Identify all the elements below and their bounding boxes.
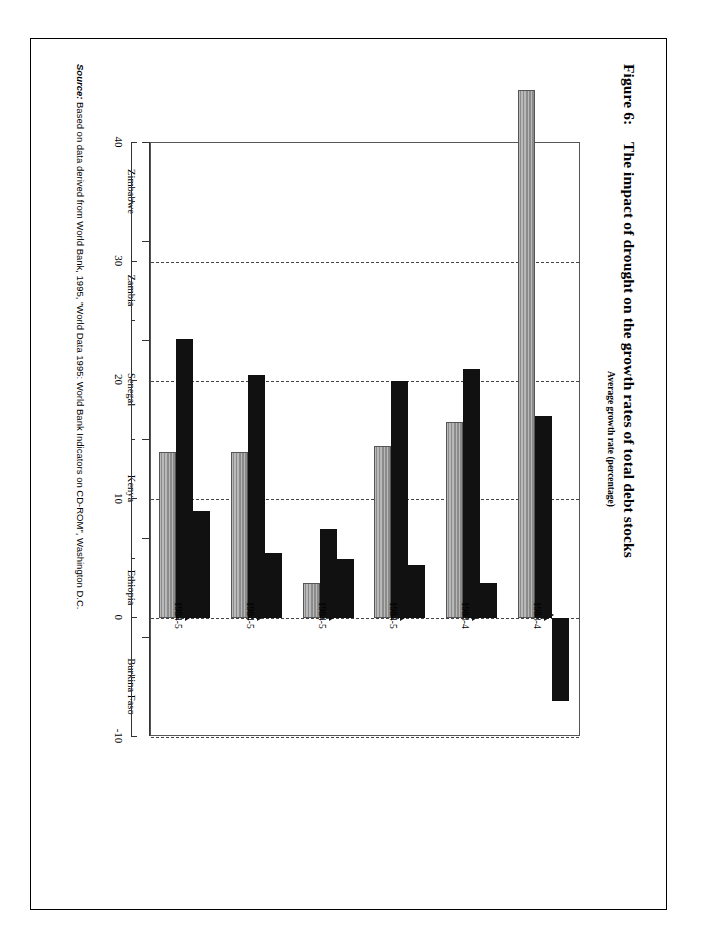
arrow-icon xyxy=(543,609,553,621)
plot-area: 1984-51984-51984-51984-51983-41983-4 xyxy=(150,142,580,736)
bar-kenya-s2 xyxy=(336,558,353,617)
gridline xyxy=(151,499,579,500)
annotation-year: 1984-5 xyxy=(245,601,255,628)
value-tick-minor xyxy=(131,676,135,677)
value-tick-minor xyxy=(131,557,135,558)
category-tick xyxy=(142,439,149,440)
legend: 2 pre-drought yearsDrought and post-drou… xyxy=(652,142,653,736)
value-tick xyxy=(131,260,137,261)
arrow-icon xyxy=(472,609,482,621)
bar-ethiopia-s0 xyxy=(231,451,248,617)
bar-senegal-s0 xyxy=(374,445,391,617)
source-note: Source: Based on data derived from World… xyxy=(75,64,86,610)
annotation-year: 1983-4 xyxy=(531,601,541,628)
arrow-icon xyxy=(185,609,195,621)
gridline xyxy=(151,261,579,262)
value-tick xyxy=(131,617,137,618)
bar-ethiopia-s1 xyxy=(248,374,265,618)
value-axis: 403020100-10 xyxy=(131,142,132,736)
value-tick-minor xyxy=(131,320,135,321)
bar-burkina-faso-s2 xyxy=(193,511,210,618)
value-axis-title: Average growth rate (percentage) xyxy=(606,142,616,736)
source-text: Based on data derived from World Bank, 1… xyxy=(75,102,86,610)
bar-zimbabwe-s2 xyxy=(551,618,568,701)
value-tick-label: 20 xyxy=(113,374,125,385)
category-tick xyxy=(142,538,149,539)
bar-zimbabwe-s0 xyxy=(517,89,534,618)
bar-zambia-s0 xyxy=(446,422,463,618)
annotation-year: 1984-5 xyxy=(388,601,398,628)
arrow-icon xyxy=(400,609,410,621)
annotation-year: 1984-5 xyxy=(173,601,183,628)
category-tick xyxy=(142,637,149,638)
figure-title: Figure 6:The impact of drought on the gr… xyxy=(620,64,638,558)
category-tick xyxy=(142,142,149,143)
figure-number: Figure 6: xyxy=(620,64,638,142)
bar-zimbabwe-s1 xyxy=(534,416,551,618)
gridline xyxy=(151,380,579,381)
bar-zambia-s1 xyxy=(463,368,480,617)
value-tick-label: 10 xyxy=(113,492,125,503)
bar-burkina-faso-s0 xyxy=(159,451,176,617)
figure-rotation-wrapper: Figure 6:The impact of drought on the gr… xyxy=(0,0,703,951)
arrow-icon xyxy=(328,609,338,621)
bar-burkina-faso-s1 xyxy=(176,339,193,618)
value-tick xyxy=(131,498,137,499)
category-tick xyxy=(142,340,149,341)
annotation-year: 1984-5 xyxy=(316,601,326,628)
gridline xyxy=(151,618,579,619)
gridline xyxy=(151,737,579,738)
value-tick-minor xyxy=(131,439,135,440)
figure: Figure 6:The impact of drought on the gr… xyxy=(52,46,652,906)
value-tick xyxy=(131,142,137,143)
source-label: Source: xyxy=(75,64,86,99)
value-tick xyxy=(131,379,137,380)
annotation-year: 1983-4 xyxy=(460,601,470,628)
value-tick-label: 40 xyxy=(113,136,125,147)
figure-title-text: The impact of drought on the growth rate… xyxy=(621,142,638,558)
bar-zambia-s2 xyxy=(480,582,497,618)
value-tick-label: 30 xyxy=(113,255,125,266)
value-tick xyxy=(131,736,137,737)
bar-senegal-s2 xyxy=(408,564,425,617)
value-tick-label: -10 xyxy=(113,728,125,743)
value-tick-minor xyxy=(131,201,135,202)
category-axis: Burkina FasoEthiopiaKenyaSenegalZambiaZi… xyxy=(149,142,150,736)
bar-ethiopia-s2 xyxy=(265,552,282,617)
bar-senegal-s1 xyxy=(391,380,408,618)
category-tick xyxy=(142,241,149,242)
arrow-icon xyxy=(257,609,267,621)
value-tick-label: 0 xyxy=(113,614,125,620)
